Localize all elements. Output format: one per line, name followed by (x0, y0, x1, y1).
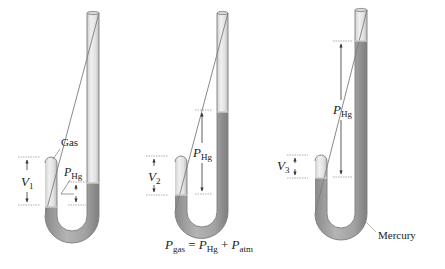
glass-tube-long-arm (87, 13, 99, 183)
gas-leader-line (53, 149, 60, 159)
tube-opening (355, 8, 367, 11)
glass-tube-short-arm (45, 157, 57, 207)
volume-label-2: V2 (148, 169, 160, 186)
pressure-dimension-2: PHg (192, 110, 212, 194)
glass-tube-long-arm (355, 10, 367, 41)
pressure-label-2: PHg (192, 145, 212, 162)
tube-opening (87, 11, 99, 14)
manometer-2: V2 PHg Pgas = PHg + Patm (146, 11, 253, 254)
volume-dimension-3: V3 (277, 155, 308, 178)
volume-dimension-1: V1 (18, 157, 40, 205)
manometer-diagram: V1 Gas PHg V2 (0, 0, 445, 269)
gas-label: Gas (61, 136, 78, 148)
pressure-dimension-3: PHg (332, 41, 352, 177)
mercury-label: Mercury (378, 229, 416, 241)
pressure-label-1: PHg (63, 165, 83, 181)
mercury-leader-line (364, 220, 376, 232)
manometer-3: V3 PHg Mercury (277, 8, 416, 241)
manometer-1: V1 Gas PHg (18, 11, 99, 243)
volume-label-1: V1 (21, 174, 33, 191)
pressure-label-3: PHg (332, 102, 352, 119)
tube-opening (217, 11, 228, 14)
glass-tube-long-arm (217, 13, 228, 112)
pressure-equation: Pgas = PHg + Patm (164, 237, 253, 254)
pressure-dimension-1: PHg (61, 165, 86, 205)
volume-dimension-2: V2 (146, 156, 168, 195)
volume-label-3: V3 (277, 158, 290, 175)
